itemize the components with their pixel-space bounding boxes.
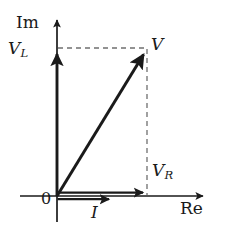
vl-label-base: V: [8, 38, 20, 58]
v-vector-label: V: [151, 36, 163, 53]
vl-vector-label: VL: [8, 40, 28, 57]
vr-label-base: V: [152, 160, 164, 180]
origin-label: 0: [41, 191, 51, 207]
phasor-diagram-figure: Im Re VL V VR 0 I: [0, 0, 229, 251]
vr-label-subscript: R: [165, 168, 174, 182]
vector-v: [57, 55, 144, 197]
i-vector-label: I: [91, 204, 98, 221]
vr-vector-label: VR: [152, 162, 173, 179]
real-axis-label: Re: [180, 200, 203, 217]
imaginary-axis-label: Im: [16, 14, 39, 31]
vl-label-subscript: L: [21, 46, 29, 60]
